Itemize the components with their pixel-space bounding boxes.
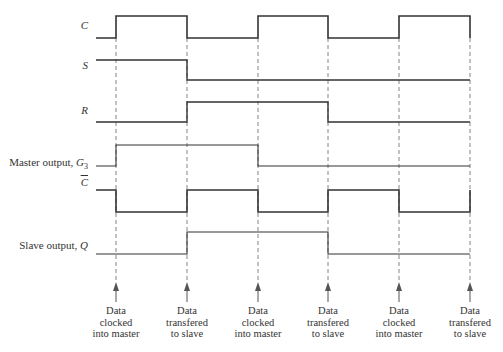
signal-label-cbar: C <box>81 176 88 188</box>
waveform-g3 <box>96 145 470 166</box>
event-caption: Datatransferedto slave <box>152 305 222 340</box>
event-caption: Dataclockedinto master <box>81 305 151 340</box>
event-arrow-icon <box>325 282 331 302</box>
event-arrow-icon <box>467 282 473 302</box>
waveform-canvas <box>0 0 503 352</box>
event-caption: Datatransferedto slave <box>435 305 503 340</box>
event-caption: Dataclockedinto master <box>364 305 434 340</box>
signal-label-c: C <box>81 19 88 31</box>
signal-label-g3: Master output, G3 <box>9 156 88 171</box>
signal-label-q: Slave output, Q <box>19 239 88 251</box>
waveform-cbar <box>96 190 470 212</box>
signal-label-r: R <box>81 104 88 116</box>
waveform-c <box>96 16 470 38</box>
event-arrow-icon <box>396 282 402 302</box>
event-caption: Dataclockedinto master <box>223 305 293 340</box>
waveform-r <box>96 102 470 122</box>
waveform-q <box>96 232 470 254</box>
event-caption: Datatransferedto slave <box>293 305 363 340</box>
event-arrow-icon <box>255 282 261 302</box>
signal-label-s: S <box>83 59 89 71</box>
waveform-s <box>96 60 470 80</box>
event-arrow-icon <box>184 282 190 302</box>
event-arrow-icon <box>113 282 119 302</box>
